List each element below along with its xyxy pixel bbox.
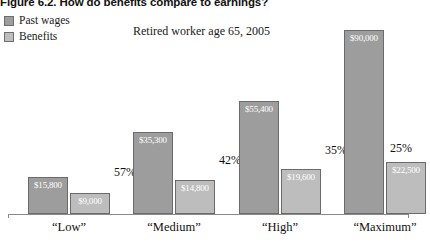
- bar-benefits-low: $9,000: [70, 193, 110, 214]
- bar-past-wages-medium: $35,300: [133, 132, 173, 214]
- axis-tick-left: [8, 214, 9, 218]
- bar-past-wages-maximum: $90,000: [344, 30, 384, 214]
- bar-benefits-maximum: $22,500: [386, 162, 426, 214]
- bar-value-past-wages-maximum: $90,000: [345, 33, 383, 43]
- bar-value-past-wages-low: $15,800: [29, 180, 67, 190]
- category-label-medium: “Medium”: [133, 220, 215, 235]
- category-label-low: “Low”: [28, 220, 110, 235]
- bar-value-benefits-high: $19,600: [282, 172, 320, 182]
- x-axis-baseline: [8, 214, 409, 215]
- bar-benefits-medium: $14,800: [175, 180, 215, 214]
- category-label-maximum: “Maximum”: [339, 220, 430, 235]
- bar-value-past-wages-medium: $35,300: [134, 135, 172, 145]
- replacement-rate-maximum: 25%: [390, 141, 412, 156]
- bar-past-wages-high: $55,400: [239, 101, 279, 214]
- bar-value-past-wages-high: $55,400: [240, 104, 278, 114]
- category-label-high: “High”: [239, 220, 321, 235]
- bar-value-benefits-maximum: $22,500: [387, 165, 425, 175]
- bar-benefits-high: $19,600: [281, 169, 321, 214]
- bar-value-benefits-low: $9,000: [71, 196, 109, 206]
- axis-tick-right: [408, 214, 409, 218]
- bar-past-wages-low: $15,800: [28, 177, 68, 214]
- bar-value-benefits-medium: $14,800: [176, 183, 214, 193]
- replacement-rate-medium: 42%: [219, 153, 241, 168]
